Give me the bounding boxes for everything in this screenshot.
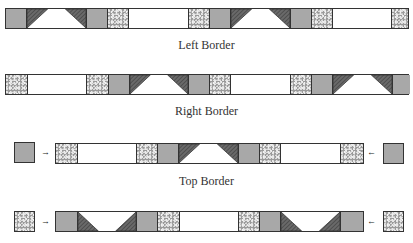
speckle-square [260,144,281,163]
gray-square [137,212,158,231]
speckle-square [210,75,231,94]
gray-square [56,212,78,231]
gray-square [239,144,260,163]
gray-square [189,75,210,94]
flying-geese-unit [27,9,87,28]
gray-square [109,75,130,94]
speckle-square [6,75,28,94]
speckle-square [87,75,109,94]
gray-square [341,212,363,231]
arrow-left-icon: ← [367,216,376,226]
speckle-square [239,212,260,231]
flying-geese-unit [130,75,189,94]
speckle-square [108,9,129,28]
speckle-square [158,212,180,231]
arrow-right-icon: → [41,216,50,226]
loose-speckle-square-left [14,211,35,232]
white-rectangle [180,212,239,231]
speckle-square [137,144,158,163]
loose-gray-square-left [14,142,35,163]
top-border-label: Top Border [0,174,413,189]
speckle-square [291,75,312,94]
flying-geese-unit [179,144,239,163]
arrow-left-icon: ← [367,147,376,157]
right-border-strip [5,74,409,95]
right-border-label: Right Border [0,104,413,119]
gray-square [260,212,281,231]
speckle-square [56,144,78,163]
flying-geese-unit-inverted [78,212,137,231]
gray-square [87,9,108,28]
arrow-right-icon: → [41,147,50,157]
gray-square [6,9,27,28]
left-border-label: Left Border [0,38,413,53]
speckle-square [312,9,333,28]
loose-speckle-square-right [383,211,404,232]
left-border-strip [5,8,409,29]
flying-geese-unit [333,75,393,94]
bottom-border-strip [55,211,364,232]
speckle-square [341,144,363,163]
white-rectangle [333,9,392,28]
top-border-strip [55,143,364,164]
gray-square [312,75,333,94]
speckle-square [189,9,210,28]
white-rectangle [78,144,137,163]
gray-square [291,9,312,28]
loose-gray-square-right [383,143,404,164]
gray-square [158,144,179,163]
white-rectangle [231,75,291,94]
white-rectangle [28,75,87,94]
flying-geese-unit [231,9,291,28]
gray-square [210,9,231,28]
white-rectangle [281,144,341,163]
gray-square [393,75,410,94]
flying-geese-unit-inverted [281,212,341,231]
speckle-square [392,9,408,28]
white-rectangle [129,9,189,28]
